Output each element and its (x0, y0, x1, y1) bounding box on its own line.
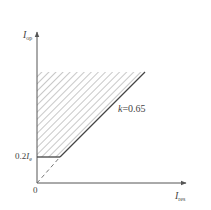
origin-label: 0 (33, 186, 38, 195)
threshold-label: 0.2Ie (15, 152, 32, 162)
differential-protection-characteristic: Iop Ires 0 0.2Ie k=0.65 (0, 0, 211, 210)
slope-extension-dashed (37, 157, 60, 183)
operating-region (37, 72, 145, 157)
y-axis-label: Iop (23, 30, 32, 41)
slope-label: k=0.65 (118, 104, 146, 114)
x-axis-label: Ires (175, 191, 185, 202)
